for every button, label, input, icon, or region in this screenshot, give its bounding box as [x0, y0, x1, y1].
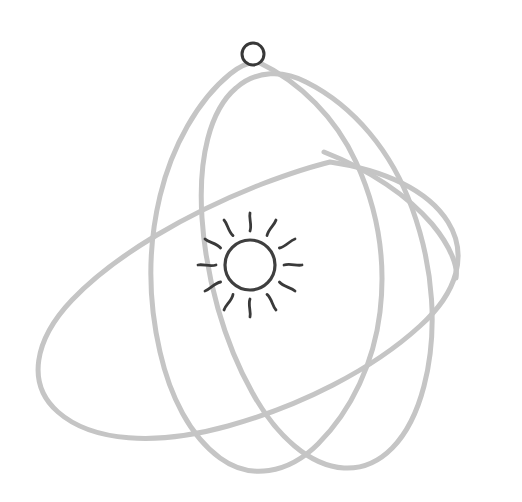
- orbit-path-2: [38, 162, 458, 438]
- sun-ray-11: [224, 220, 233, 236]
- orbit-tail-group: [324, 152, 456, 278]
- sun-ray-0: [250, 213, 251, 231]
- atom-orbit-diagram: [0, 0, 522, 502]
- nucleus-circle: [225, 240, 275, 290]
- sun-ray-4: [279, 282, 295, 291]
- orbit-path-1: [151, 62, 382, 471]
- sun-ray-7: [224, 294, 233, 310]
- electron-circle: [242, 43, 264, 65]
- orbit-group-1: [151, 62, 382, 471]
- sun-ray-2: [279, 239, 295, 248]
- orbit-group-3: [201, 74, 432, 468]
- orbit-group-2: [38, 162, 458, 438]
- sun-ray-1: [267, 220, 276, 236]
- sun-ray-3: [284, 264, 302, 265]
- illustration-canvas: [0, 0, 522, 502]
- orbit-tail-path: [324, 152, 456, 278]
- sun-ray-6: [249, 299, 250, 317]
- sun-ray-5: [267, 294, 276, 310]
- electron-group: [242, 43, 264, 65]
- sun-ray-9: [198, 265, 216, 266]
- orbit-path-3: [201, 74, 432, 468]
